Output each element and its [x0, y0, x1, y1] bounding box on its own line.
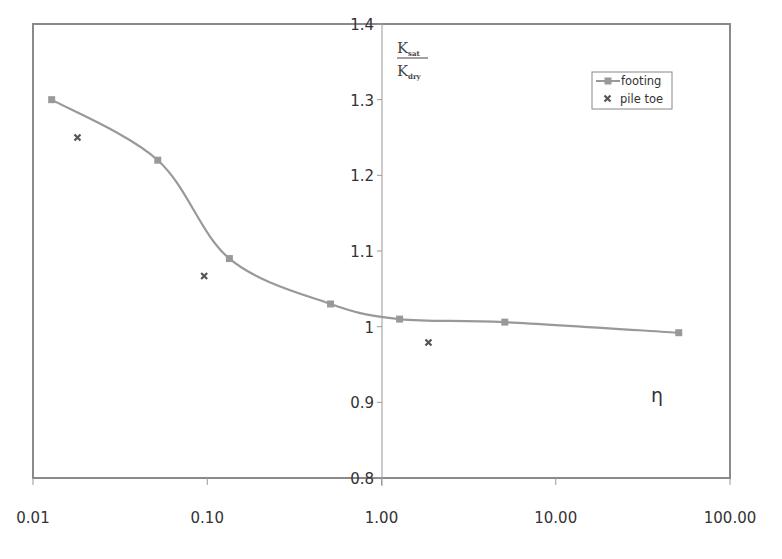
- figure-caption-cropped: [0, 549, 782, 559]
- x-marker-icon: [425, 340, 431, 346]
- x-tick-label: 0.10: [191, 509, 224, 527]
- x-marker-icon: [74, 135, 80, 141]
- series-line: [52, 100, 679, 333]
- square-marker-icon: [327, 300, 334, 307]
- ylabel-denominator-sub: dry: [408, 72, 422, 81]
- x-axis-label-eta: η: [651, 384, 663, 406]
- legend-piletoe-label: pile toe: [620, 92, 663, 106]
- square-marker-icon: [675, 329, 682, 336]
- square-marker-icon: [501, 319, 508, 326]
- y-tick-label: 1.2: [350, 167, 374, 185]
- y-tick-label: 1.1: [350, 243, 374, 261]
- x-marker-icon: [201, 273, 207, 279]
- y-tick-label: 0.8: [350, 470, 374, 488]
- ylabel-numerator-sub: sat: [408, 49, 420, 58]
- square-marker-icon: [226, 255, 233, 262]
- y-tick-label: 1.3: [350, 92, 374, 110]
- series-pile-toe: [74, 135, 431, 346]
- square-marker-icon: [396, 316, 403, 323]
- x-tick-label: 1.00: [365, 509, 398, 527]
- legend: footing pile toe: [592, 72, 672, 109]
- x-tick-label: 10.00: [534, 509, 577, 527]
- series: [48, 96, 682, 345]
- square-marker-icon: [154, 157, 161, 164]
- square-marker-icon: [48, 96, 55, 103]
- y-axis-label: K sat K dry: [397, 39, 428, 81]
- legend-footing-marker-icon: [605, 78, 612, 85]
- x-tick-label: 100.00: [704, 509, 757, 527]
- y-tick-label: 1: [364, 319, 374, 337]
- x-tick-label: 0.01: [16, 509, 49, 527]
- series-footing: [48, 96, 682, 336]
- legend-footing-label: footing: [621, 74, 661, 88]
- chart: 0.80.911.11.21.31.40.010.101.0010.00100.…: [0, 0, 782, 559]
- y-tick-label: 0.9: [350, 394, 374, 412]
- y-tick-label: 1.4: [350, 16, 374, 34]
